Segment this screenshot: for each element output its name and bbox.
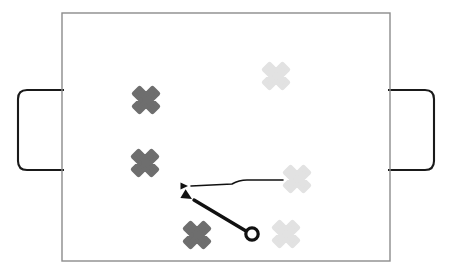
pitch[interactable] — [62, 13, 390, 261]
player-light-2[interactable] — [279, 161, 316, 198]
player-light-2-glyph — [279, 161, 316, 198]
tactics-board[interactable] — [0, 0, 451, 273]
ball[interactable] — [246, 228, 258, 240]
player-dark-3-glyph — [179, 217, 216, 254]
player-light-1-glyph — [258, 58, 295, 95]
player-dark-1[interactable] — [128, 82, 165, 119]
players-layer — [127, 58, 316, 254]
player-light-3[interactable] — [268, 216, 305, 253]
goal-left — [18, 90, 64, 170]
goal-right — [388, 90, 434, 170]
run-arrow-line[interactable] — [191, 180, 283, 186]
ball-layer — [246, 228, 258, 240]
player-dark-2-glyph — [127, 145, 164, 182]
player-light-3-glyph — [268, 216, 305, 253]
pitch-layer — [62, 13, 390, 261]
run-arrow-head — [181, 182, 189, 189]
pass-arrow-head — [180, 189, 194, 203]
player-dark-3[interactable] — [179, 217, 216, 254]
arrows-layer — [180, 180, 283, 231]
player-dark-1-glyph — [128, 82, 165, 119]
player-light-1[interactable] — [258, 58, 295, 95]
player-dark-2[interactable] — [127, 145, 164, 182]
goals-layer — [18, 90, 434, 170]
tactics-board-canvas[interactable] — [0, 0, 451, 273]
